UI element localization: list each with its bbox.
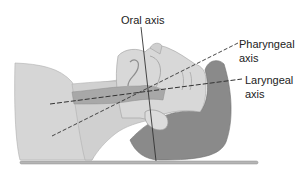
laryngeal-axis-label-line2: axis xyxy=(245,88,265,100)
pharyngeal-axis-label-line2: axis xyxy=(239,52,259,64)
table-surface xyxy=(20,161,258,164)
airway-axes-diagram: Oral axis Pharyngeal axis Laryngeal axis xyxy=(0,0,307,176)
laryngeal-axis-label: Laryngeal xyxy=(245,74,293,86)
head-shape xyxy=(116,46,206,120)
oral-axis-label: Oral axis xyxy=(121,14,164,26)
pharyngeal-axis-label: Pharyngeal xyxy=(239,38,295,50)
